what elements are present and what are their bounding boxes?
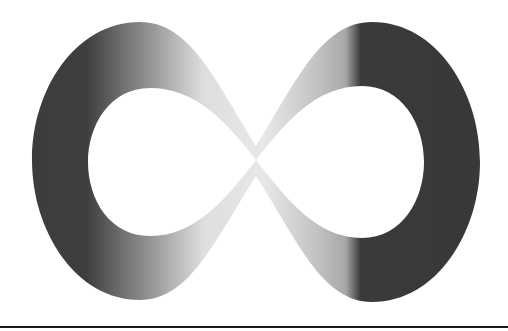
- image-canvas: Infinity symbol: [0, 0, 508, 331]
- bottom-border-line: [0, 326, 508, 328]
- infinity-symbol-icon: [0, 0, 508, 331]
